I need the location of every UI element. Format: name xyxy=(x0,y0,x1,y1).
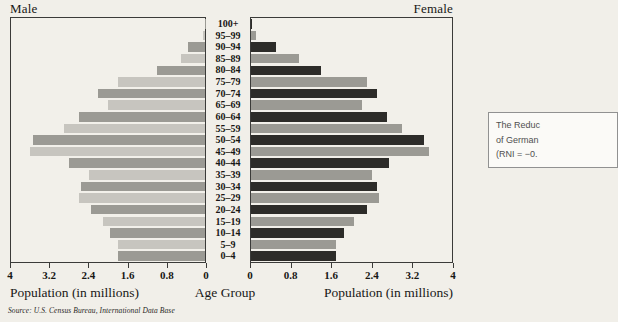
female-bar-60–64 xyxy=(251,112,387,122)
female-pyramid-panel xyxy=(250,17,453,263)
age-group-label: 0–4 xyxy=(206,250,250,262)
female-bar-70–74 xyxy=(251,89,377,99)
female-bar-45–49 xyxy=(251,147,429,157)
age-group-label: 15–19 xyxy=(206,216,250,228)
age-group-label: 60–64 xyxy=(206,111,250,123)
male-pyramid-panel xyxy=(10,17,206,263)
male-bar-35–39 xyxy=(89,170,205,180)
female-axis-caption: Population (in millions) xyxy=(320,285,453,301)
age-group-label: 50–54 xyxy=(206,134,250,146)
male-bar-75–79 xyxy=(118,77,205,87)
annotation-line: (RNI = −0. xyxy=(496,147,617,162)
age-group-label: 5–9 xyxy=(206,239,250,251)
male-bar-30–34 xyxy=(81,182,205,192)
female-bar-50–54 xyxy=(251,135,424,145)
axis-tick-mark xyxy=(453,263,454,268)
male-bar-65–69 xyxy=(108,100,205,110)
axis-tick-mark xyxy=(128,263,129,268)
female-bar-10–14 xyxy=(251,228,344,238)
age-group-label: 65–69 xyxy=(206,99,250,111)
annotation-line: of German xyxy=(496,133,617,148)
female-side-title: Female xyxy=(408,1,453,17)
female-x-axis: 00.81.62.43.24 xyxy=(250,263,453,285)
axis-tick-label: 1.6 xyxy=(324,269,338,281)
age-group-label: 35–39 xyxy=(206,169,250,181)
axis-tick-mark xyxy=(49,263,50,268)
age-group-label: 85–89 xyxy=(206,53,250,65)
female-bar-5–9 xyxy=(251,240,336,250)
axis-tick-mark xyxy=(250,263,251,268)
female-bar-40–44 xyxy=(251,158,389,168)
male-bar-25–29 xyxy=(79,193,205,203)
male-bar-50–54 xyxy=(33,135,205,145)
male-bar-45–49 xyxy=(30,147,205,157)
female-bar-30–34 xyxy=(251,182,377,192)
age-group-label: 90–94 xyxy=(206,41,250,53)
axis-tick-mark xyxy=(206,263,207,268)
female-bar-90–94 xyxy=(251,42,276,52)
male-bar-55–59 xyxy=(64,124,205,134)
axis-tick-label: 0 xyxy=(247,269,253,281)
axis-tick-mark xyxy=(412,263,413,268)
axis-tick-mark xyxy=(291,263,292,268)
age-group-label: 80–84 xyxy=(206,64,250,76)
axis-tick-label: 0 xyxy=(203,269,209,281)
age-group-label: 40–44 xyxy=(206,157,250,169)
age-group-label: 75–79 xyxy=(206,76,250,88)
axis-tick-mark xyxy=(10,263,11,268)
male-bar-5–9 xyxy=(118,240,205,250)
male-bar-85–89 xyxy=(181,54,205,64)
axis-tick-label: 3.2 xyxy=(406,269,420,281)
male-bar-20–24 xyxy=(91,205,205,215)
axis-tick-label: 2.4 xyxy=(365,269,379,281)
axis-tick-mark xyxy=(167,263,168,268)
age-group-label: 70–74 xyxy=(206,88,250,100)
axis-tick-label: 0.8 xyxy=(284,269,298,281)
age-group-label: 95–99 xyxy=(206,30,250,42)
axis-tick-label: 4 xyxy=(7,269,13,281)
axis-tick-label: 3.2 xyxy=(42,269,56,281)
female-bar-85–89 xyxy=(251,54,299,64)
axis-tick-label: 4 xyxy=(450,269,456,281)
male-bar-60–64 xyxy=(79,112,205,122)
male-bar-40–44 xyxy=(69,158,205,168)
annotation-callout-box: The Reduc of German (RNI = −0. xyxy=(488,112,618,168)
male-bar-10–14 xyxy=(110,228,205,238)
axis-tick-mark xyxy=(331,263,332,268)
source-credit: Source: U.S. Census Bureau, Internationa… xyxy=(8,306,175,315)
age-group-label: 55–59 xyxy=(206,123,250,135)
male-bar-95–99 xyxy=(203,31,205,41)
male-bar-90–94 xyxy=(188,42,205,52)
male-bar-80–84 xyxy=(157,66,206,76)
female-bar-0–4 xyxy=(251,251,336,261)
female-bar-80–84 xyxy=(251,66,321,76)
age-group-label: 10–14 xyxy=(206,227,250,239)
annotation-line: The Reduc xyxy=(496,118,617,133)
age-group-label: 20–24 xyxy=(206,204,250,216)
female-bar-75–79 xyxy=(251,77,367,87)
female-bar-15–19 xyxy=(251,217,354,227)
age-group-label: 25–29 xyxy=(206,192,250,204)
age-group-label: 45–49 xyxy=(206,146,250,158)
axis-tick-label: 1.6 xyxy=(121,269,135,281)
male-bar-15–19 xyxy=(103,217,205,227)
male-side-title: Male xyxy=(10,1,38,17)
age-group-axis-caption: Age Group xyxy=(160,285,290,301)
male-bar-70–74 xyxy=(98,89,205,99)
axis-tick-mark xyxy=(372,263,373,268)
male-x-axis: 43.22.41.60.80 xyxy=(10,263,206,285)
female-bar-25–29 xyxy=(251,193,379,203)
axis-tick-mark xyxy=(88,263,89,268)
age-group-labels-column: 100+95–9990–9485–8980–8475–7970–7465–696… xyxy=(206,17,250,263)
axis-tick-label: 2.4 xyxy=(82,269,96,281)
female-bar-55–59 xyxy=(251,124,402,134)
female-bar-65–69 xyxy=(251,100,362,110)
female-bar-100+ xyxy=(251,19,252,29)
male-axis-caption: Population (in millions) xyxy=(10,285,139,301)
female-bar-95–99 xyxy=(251,31,256,41)
age-group-label: 100+ xyxy=(206,18,250,30)
female-bar-20–24 xyxy=(251,205,367,215)
female-bar-35–39 xyxy=(251,170,372,180)
male-bar-0–4 xyxy=(118,251,205,261)
